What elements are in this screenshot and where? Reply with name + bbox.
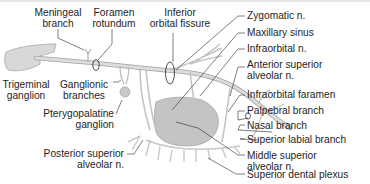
maxillary-nerve-diagram: Meningeal branch Foramen rotundum Inferi… bbox=[0, 0, 370, 184]
label-palpebral-branch: Palpebral branch bbox=[247, 105, 324, 116]
anterior-superior-alveolar-nerve bbox=[222, 88, 230, 142]
label-nasal-branch: Nasal branch bbox=[247, 120, 307, 131]
posterior-superior-alveolar-nerves bbox=[140, 70, 156, 130]
label-meningeal-branch: Meningeal branch bbox=[30, 7, 86, 29]
label-trigeminal-ganglion: Trigeminal ganglion bbox=[0, 79, 52, 101]
label-infraorbital-foramen: Infraorbital faramen bbox=[247, 89, 335, 100]
label-superior-dental-plexus: Superior dental plexus bbox=[247, 169, 348, 180]
label-anterior-superior-alveolar: Anterior superior alveolar n. bbox=[247, 59, 322, 81]
label-infraorbital-n: Infraorbital n. bbox=[247, 43, 306, 54]
zygomatic-branch bbox=[170, 44, 222, 70]
label-pterygopalatine-ganglion: Pterygopalatine ganglion bbox=[34, 108, 114, 130]
label-superior-labial-branch: Superior labial branch bbox=[247, 134, 346, 145]
label-ganglionic-branches: Ganglionic branches bbox=[58, 79, 110, 101]
pterygopalatine-ganglion-shape bbox=[120, 87, 130, 97]
label-posterior-superior-alveolar: Posterior superior alveolar n. bbox=[30, 148, 124, 170]
ganglionic-branches bbox=[120, 66, 129, 84]
label-maxillary-sinus: Maxillary sinus bbox=[247, 27, 314, 38]
label-inferior-orbital-fissure: Inferior orbital fissure bbox=[146, 7, 214, 29]
label-foramen-rotundum: Foramen rotundum bbox=[88, 7, 140, 29]
label-zygomatic-n: Zygomatic n. bbox=[247, 10, 305, 21]
maxillary-sinus-shape bbox=[155, 97, 219, 146]
